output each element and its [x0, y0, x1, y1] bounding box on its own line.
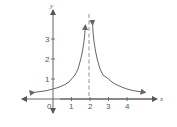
y-tick-label: 2 — [45, 55, 50, 64]
curve-left-branch — [35, 25, 86, 92]
x-tick-label: 2 — [88, 102, 93, 111]
function-graph: 0 1 2 3 4 1 2 3 x y — [0, 0, 177, 127]
x-tick-label: 3 — [106, 102, 111, 111]
chart-container: 0 1 2 3 4 1 2 3 x y — [0, 0, 177, 127]
x-tick-label: 1 — [69, 102, 74, 111]
y-tick-label: 1 — [45, 75, 50, 84]
y-tick-label: 3 — [45, 35, 50, 44]
x-axis-label: x — [159, 95, 164, 103]
x-tick-label: 4 — [125, 102, 130, 111]
x-tick-label: 0 — [47, 102, 52, 111]
curve-right-branch — [93, 25, 146, 92]
y-axis-label: y — [49, 2, 54, 10]
